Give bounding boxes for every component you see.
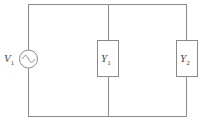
source-label: V1 bbox=[4, 53, 14, 67]
y1-label: Y1 bbox=[101, 53, 111, 67]
y2-label: Y2 bbox=[180, 53, 190, 67]
sine-wave-icon bbox=[23, 56, 35, 63]
circuit-diagram: V1 Y1 Y2 bbox=[0, 0, 204, 123]
